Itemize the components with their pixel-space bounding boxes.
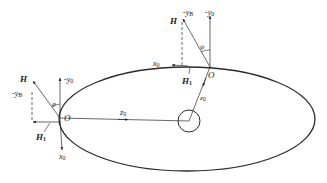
left-y0-label: -y0 (64, 75, 73, 84)
top-x0-label: x0 (152, 59, 160, 68)
left-H-label: H (19, 74, 28, 84)
top-origin-label: O (208, 70, 215, 80)
top-point-vectors (172, 16, 210, 121)
left-H1-label: H1 (35, 132, 46, 142)
left-origin-label: O (64, 113, 71, 123)
top-z0-label: z0 (199, 94, 206, 102)
left-yB-label: -yB (12, 89, 22, 98)
left-angle-label: φ (52, 100, 56, 108)
left-x0-label: x0 (58, 152, 66, 161)
left-point-vectors (32, 78, 189, 150)
top-yB-label: -yB (183, 8, 193, 17)
top-H1-label: H1 (181, 76, 192, 86)
top-H-label: H (169, 16, 178, 26)
top-y0-label: -y0 (205, 8, 214, 17)
top-angle-label: ψ (200, 43, 205, 51)
orbit-diagram: H -yB -y0 φ O H1 x0 z0 H -yB -y0 ψ O H1 … (0, 0, 327, 183)
left-z0-label: z0 (119, 108, 126, 117)
